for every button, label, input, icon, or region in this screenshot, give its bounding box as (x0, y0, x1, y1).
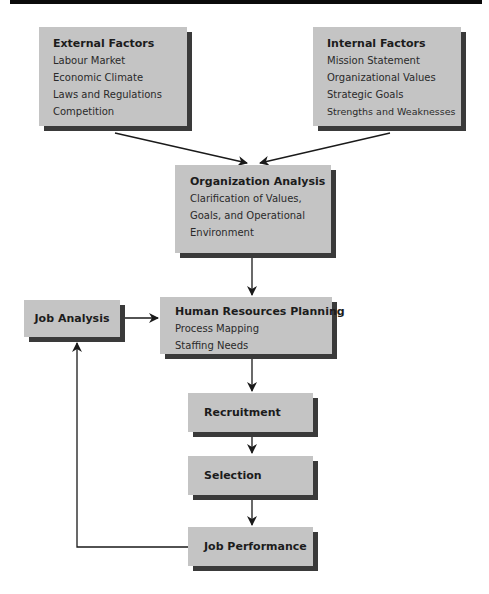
recruitment-box: Recruitment (188, 393, 313, 432)
job-analysis-title: Job Analysis (35, 311, 110, 327)
internal-factor-item: Mission Statement (327, 52, 461, 69)
hr-planning-box: Human Resources Planning Process Mapping… (160, 297, 332, 354)
external-factors-title: External Factors (53, 36, 187, 52)
external-factor-item: Economic Climate (53, 69, 187, 86)
hr-planning-item: Staffing Needs (175, 337, 332, 354)
organization-analysis-item: Goals, and Operational (190, 207, 331, 224)
organization-analysis-title: Organization Analysis (190, 174, 331, 190)
job-performance-title: Job Performance (204, 539, 307, 555)
organization-analysis-item: Clarification of Values, (190, 190, 331, 207)
organization-analysis-box: Organization Analysis Clarification of V… (175, 165, 331, 253)
internal-factors-title: Internal Factors (327, 36, 461, 52)
arrow-external-to-org (115, 133, 247, 163)
hr-planning-title: Human Resources Planning (175, 304, 332, 320)
external-factor-item: Labour Market (53, 52, 187, 69)
arrow-internal-to-org (260, 133, 390, 163)
organization-analysis-item: Environment (190, 224, 331, 241)
job-analysis-box: Job Analysis (24, 300, 120, 337)
selection-title: Selection (204, 468, 262, 484)
external-factor-item: Laws and Regulations (53, 86, 187, 103)
internal-factor-item: Organizational Values (327, 69, 461, 86)
internal-factor-item: Strengths and Weaknesses (327, 103, 461, 120)
selection-box: Selection (188, 456, 313, 495)
external-factor-item: Competition (53, 103, 187, 120)
arrow-performance-to-jobanalysis (77, 343, 188, 547)
recruitment-title: Recruitment (204, 405, 281, 421)
external-factors-box: External Factors Labour Market Economic … (39, 27, 187, 126)
internal-factors-box: Internal Factors Mission Statement Organ… (313, 27, 461, 126)
hr-planning-item: Process Mapping (175, 320, 332, 337)
internal-factor-item: Strategic Goals (327, 86, 461, 103)
job-performance-box: Job Performance (188, 527, 313, 566)
